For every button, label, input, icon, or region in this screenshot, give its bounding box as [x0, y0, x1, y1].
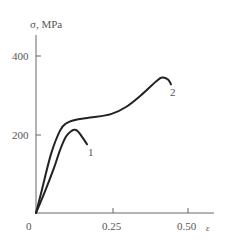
y-tick-label-200: 200 — [12, 129, 29, 141]
curve-1-label: 1 — [88, 146, 94, 158]
x-tick-label-025: 0.25 — [102, 220, 122, 232]
curve-1 — [36, 130, 87, 213]
origin-label: 0 — [26, 220, 32, 232]
stress-strain-chart: σ, MPa 400 200 0 0.25 0.50 ε 1 2 — [0, 0, 226, 245]
curve-2 — [36, 78, 171, 213]
y-axis-label: σ, MPa — [30, 18, 62, 30]
x-tick-label-050: 0.50 — [177, 220, 197, 232]
y-tick-label-400: 400 — [12, 50, 29, 62]
x-axis-label: ε — [206, 223, 210, 233]
curve-2-label: 2 — [170, 86, 176, 98]
